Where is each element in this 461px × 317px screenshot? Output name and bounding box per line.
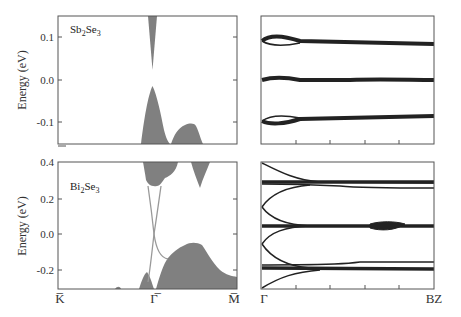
panel-bottom-right: Γ BZ	[260, 162, 442, 306]
ytick-label: 0.1	[40, 31, 54, 43]
band-line	[262, 116, 434, 123]
ytick-label: 0.0	[40, 228, 54, 240]
valence-band-fill	[141, 86, 170, 144]
y-axis-label: Energy (eV)	[15, 50, 29, 109]
material-label: Sb2Se3	[70, 23, 101, 38]
valence-band-fill	[139, 272, 154, 289]
conduction-band-fill	[143, 162, 178, 186]
band-line	[262, 78, 434, 80]
band-line	[262, 268, 434, 269]
xtick-label-Gamma: Γ	[260, 291, 268, 306]
conduction-band-fill	[148, 16, 157, 70]
conduction-band-fill	[191, 162, 210, 188]
valence-band-fill	[156, 243, 237, 289]
xtick-label-M: M̅	[228, 291, 240, 306]
xtick-label-Gamma: Γ̅	[150, 291, 162, 306]
ytick-label: -0.1	[37, 116, 54, 128]
band-structure-figure: 0.1 0.0 -0.1 Energy (eV) Sb2Se3	[0, 0, 461, 317]
ytick-label: 0.4	[40, 156, 54, 168]
ytick-label: 0.0	[40, 74, 54, 86]
valence-hump-fill	[171, 124, 203, 144]
panel-top-left: 0.1 0.0 -0.1 Energy (eV) Sb2Se3	[15, 16, 237, 146]
panel-bottom-left: 0.4 0.2 0.0 -0.2 Energy (eV) Bi2Se3 K̅ Γ…	[15, 156, 240, 306]
material-label: Bi2Se3	[70, 180, 99, 195]
band-line	[262, 36, 434, 44]
ytick-label: -0.2	[37, 264, 54, 276]
y-axis-label: Energy (eV)	[15, 196, 29, 255]
ytick-label: 0.2	[40, 193, 54, 205]
xtick-label-BZ: BZ	[426, 291, 443, 306]
xtick-label-K: K̅	[55, 291, 65, 306]
panel-top-right	[261, 16, 434, 144]
